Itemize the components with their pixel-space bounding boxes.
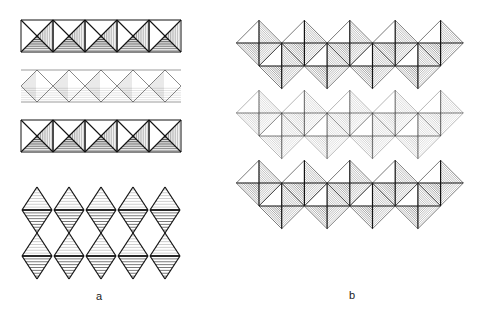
panel-a-square-row	[21, 120, 181, 152]
panel-b-octahedra-chain	[236, 20, 463, 88]
panel-a-octahedra-row	[22, 233, 180, 279]
panel-a-square-row	[21, 20, 181, 52]
panel-b-octahedra-chain	[236, 90, 463, 158]
figure-canvas	[0, 0, 483, 314]
panel-b-octahedra-chain	[236, 160, 463, 228]
panel-a-octahedra-row	[22, 187, 180, 233]
panel-a-square-row	[21, 70, 181, 102]
panel-a-label: a	[96, 290, 102, 302]
panel-b-label: b	[349, 289, 355, 301]
